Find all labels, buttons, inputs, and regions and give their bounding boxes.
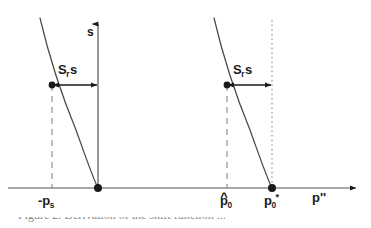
- figure-root: s p'' Srs Srs -ps ^p0 p0* Figure 2. Deri…: [0, 0, 371, 228]
- left-span-tail: s: [70, 62, 77, 77]
- left-exponential-curve: [40, 18, 98, 188]
- p0-hat-sub: 0: [227, 200, 232, 210]
- right-curve-point: [224, 82, 231, 89]
- figure-caption: Figure 2. Derivation of the shift functi…: [18, 217, 226, 223]
- caption-strip: Figure 2. Derivation of the shift functi…: [0, 217, 371, 228]
- tick-label-minus-ps: -ps: [38, 194, 55, 207]
- tick-label-p0-hat: ^p0: [220, 194, 233, 207]
- right-axis-point: [268, 184, 276, 192]
- left-origin-point: [94, 184, 102, 192]
- right-span-tail: s: [245, 62, 252, 77]
- right-span-sub: r: [241, 69, 244, 79]
- minus-ps-base: -p: [38, 193, 50, 208]
- minus-ps-sub: s: [50, 200, 55, 210]
- x-axis-label: p'': [312, 191, 326, 204]
- left-span-label: Srs: [58, 63, 77, 76]
- right-exponential-curve: [214, 18, 272, 188]
- tick-label-p0-star: p0*: [264, 194, 280, 207]
- y-axis-label: s: [87, 26, 94, 38]
- left-span-sub: r: [66, 69, 69, 79]
- p0-star-sup: *: [276, 192, 280, 202]
- right-span-label: Srs: [233, 63, 252, 76]
- left-curve-point: [49, 82, 56, 89]
